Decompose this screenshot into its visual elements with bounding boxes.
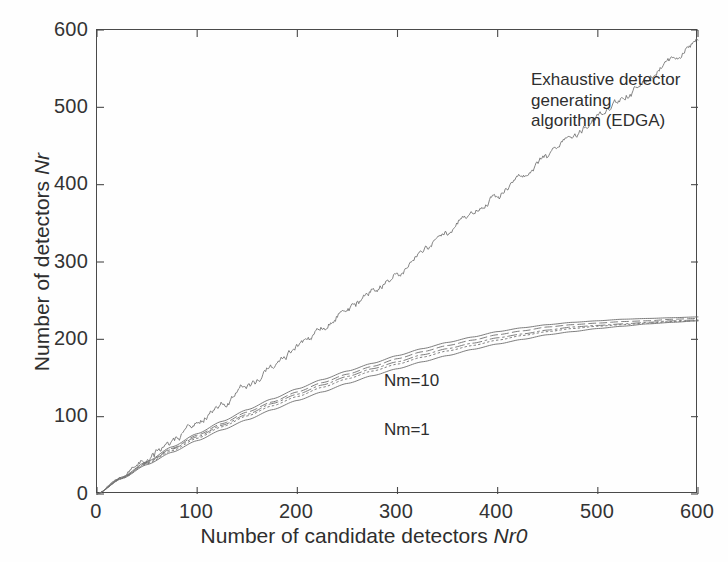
x-tick-label: 500 [567, 500, 627, 523]
annotation-nm10: Nm=10 [384, 371, 439, 392]
x-tick-label: 0 [66, 500, 126, 523]
plot-area: Exhaustive detector generating algorithm… [96, 29, 697, 493]
y-axis-title: Number of detectors Nr [30, 72, 54, 452]
x-axis-title: Number of candidate detectors Nr0 [0, 524, 728, 548]
x-axis-title-symbol: Nr0 [494, 524, 528, 547]
y-tick-label: 300 [54, 250, 88, 273]
x-tick-label: 100 [166, 500, 226, 523]
y-axis-title-text: Number of detectors [30, 175, 53, 371]
x-tick-label: 300 [366, 500, 426, 523]
y-tick-label: 400 [54, 172, 88, 195]
figure-root: 600 500 400 300 200 100 0 0 100 200 300 … [0, 0, 728, 562]
y-tick-label: 500 [54, 95, 88, 118]
curve-nm-2 [97, 321, 698, 494]
y-tick-label: 600 [54, 18, 88, 41]
curve-nm-10 [97, 317, 698, 494]
x-tick-label: 400 [466, 500, 526, 523]
x-axis-title-text: Number of candidate detectors [201, 524, 494, 547]
curve-nm-3 [97, 320, 698, 494]
curve-nm-1 [97, 321, 698, 494]
y-tick-label: 200 [54, 327, 88, 350]
annotation-edga: Exhaustive detector generating algorithm… [531, 70, 696, 132]
x-tick-label: 600 [667, 500, 727, 523]
y-axis-title-symbol: Nr [30, 153, 53, 175]
curve-nm-5 [97, 318, 698, 494]
y-tick-label: 100 [54, 404, 88, 427]
x-tick-label: 200 [266, 500, 326, 523]
annotation-nm1: Nm=1 [384, 420, 430, 441]
